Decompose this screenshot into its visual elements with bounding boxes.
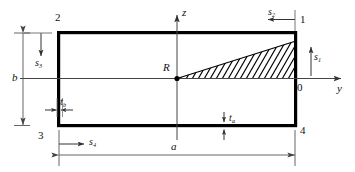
origin-label: 0 xyxy=(297,82,303,93)
node-label-1: 1 xyxy=(300,14,306,25)
s2-subscript: 2 xyxy=(272,11,275,18)
y-axis-label: y xyxy=(337,83,342,94)
s4-label: s4 xyxy=(89,137,96,147)
reference-point-marker xyxy=(174,76,179,81)
tb-label: tb xyxy=(60,97,66,107)
reference-point-label: R xyxy=(163,62,170,73)
s4-subscript: 4 xyxy=(93,141,96,148)
ta-subscript: a xyxy=(232,117,235,124)
tb-subscript: b xyxy=(63,101,66,108)
ta-label: ta xyxy=(229,113,235,123)
dimension-a-label: a xyxy=(171,141,177,152)
dimension-b-label: b xyxy=(12,72,18,83)
s3-subscript: 3 xyxy=(39,62,42,69)
node-label-2: 2 xyxy=(55,12,61,23)
s1-label: s1 xyxy=(314,52,321,62)
swept-area-outline xyxy=(177,41,296,79)
s3-label: s3 xyxy=(35,58,42,68)
s3-arc-coordinate xyxy=(24,33,52,56)
node-label-4: 4 xyxy=(300,125,306,136)
s1-subscript: 1 xyxy=(318,56,321,63)
z-axis-label: z xyxy=(182,7,186,18)
cross-section-figure: 2 1 3 4 R 0 z y s1 s2 s3 s4 tb ta b a xyxy=(0,0,355,172)
node-label-3: 3 xyxy=(38,130,44,141)
s2-label: s2 xyxy=(268,7,275,17)
